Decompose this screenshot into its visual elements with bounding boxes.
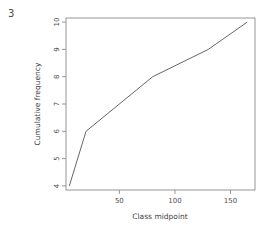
figure-canvas: 3 10 9 8 7 6 5 4 xyxy=(0,0,265,231)
y-tick-label-7: 7 xyxy=(53,102,61,106)
y-axis-title: Cumulative frequency xyxy=(33,62,42,145)
x-tick-label-100: 100 xyxy=(168,197,181,205)
cumulative-frequency-line-chart: 10 9 8 7 6 5 4 50 100 150 Class midpoint… xyxy=(0,0,265,231)
cumulative-frequency-line xyxy=(69,22,247,186)
plot-frame-box xyxy=(66,18,255,190)
y-tick-label-9: 9 xyxy=(53,47,61,51)
y-tick-label-6: 6 xyxy=(53,129,61,134)
y-tick-label-10: 10 xyxy=(53,18,61,27)
y-tick-label-5: 5 xyxy=(53,156,61,160)
x-tick-label-50: 50 xyxy=(115,197,124,205)
y-axis-tick-labels: 10 9 8 7 6 5 4 xyxy=(53,18,61,188)
x-axis-title: Class midpoint xyxy=(132,212,187,221)
y-tick-label-4: 4 xyxy=(53,183,61,188)
x-axis-tick-labels: 50 100 150 xyxy=(115,197,237,205)
y-tick-label-8: 8 xyxy=(53,74,61,78)
x-tick-label-150: 150 xyxy=(224,197,237,205)
y-axis-ticks xyxy=(62,22,66,186)
x-axis-ticks xyxy=(119,190,230,194)
